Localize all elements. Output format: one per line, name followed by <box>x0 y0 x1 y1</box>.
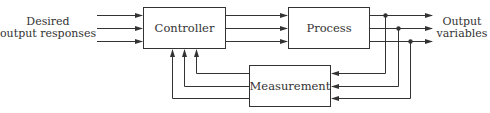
output-label: Output variables <box>434 16 490 40</box>
measurement-label: Measurement <box>249 65 331 107</box>
process-label: Process <box>288 7 370 49</box>
input-label-line2: output responses <box>0 28 96 40</box>
input-label: Desired output responses <box>0 16 96 40</box>
input-arrows <box>97 16 142 42</box>
measurement-to-controller-arrows <box>173 50 250 99</box>
controller-label: Controller <box>143 7 226 49</box>
output-label-line2: variables <box>434 28 490 40</box>
controller-to-process-arrows <box>226 16 288 42</box>
output-arrows <box>370 16 433 42</box>
